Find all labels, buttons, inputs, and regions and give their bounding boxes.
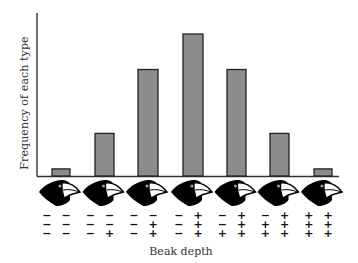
genotype-label: − −− −− +: [84, 211, 120, 238]
genotype-row: + +: [216, 229, 252, 238]
bar-7: [314, 169, 332, 176]
genotype-label: − +− +− +: [172, 211, 208, 238]
finch-head-icon: [171, 180, 212, 206]
genotype-row: − +: [172, 229, 208, 238]
bar-1: [52, 169, 70, 176]
finch-head-icon: [301, 180, 342, 206]
bars: [52, 34, 332, 176]
genotype-label: − −− +− +: [127, 211, 163, 238]
genotype-row: − +: [84, 229, 120, 238]
genotype-label: − −− −− −: [40, 211, 76, 238]
genotype-row: − +: [127, 229, 163, 238]
genotype-row: + +: [302, 229, 338, 238]
bar-3: [138, 70, 158, 177]
genotype-label: − +− ++ +: [216, 211, 252, 238]
bar-6: [270, 133, 289, 176]
genotype-label: − ++ ++ +: [259, 211, 295, 238]
bar-5: [227, 70, 246, 177]
bar-4: [183, 34, 203, 176]
bar-2: [95, 133, 114, 176]
x-axis-label: Beak depth: [149, 245, 212, 258]
genotype-label: + ++ ++ +: [302, 211, 338, 238]
genotype-row: − −: [40, 229, 76, 238]
y-axis-label: Frequency of each type: [18, 36, 31, 169]
finch-icons: [39, 180, 342, 206]
finch-head-icon: [83, 180, 124, 206]
genotype-row: + +: [259, 229, 295, 238]
finch-head-icon: [215, 180, 256, 206]
finch-head-icon: [258, 180, 299, 206]
finch-head-icon: [126, 180, 167, 206]
finch-head-icon: [39, 180, 80, 206]
